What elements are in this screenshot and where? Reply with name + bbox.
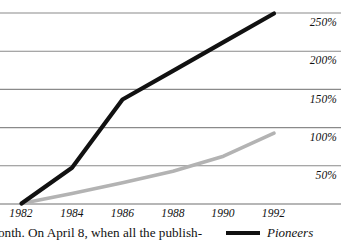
- chart-figure: 250% 200% 150% 100% 50% 1982 1984 1986 1…: [0, 0, 341, 216]
- series-line-pioneers: [22, 14, 275, 204]
- y-tick-label-200: 200%: [277, 54, 337, 66]
- legend-swatch-pioneers: [226, 231, 260, 234]
- body-text: onth. On April 8, when all the publish-: [0, 225, 213, 241]
- line-chart-plot: [0, 0, 341, 216]
- y-tick-label-150: 150%: [277, 93, 337, 105]
- y-tick-label-250: 250%: [277, 16, 337, 28]
- y-tick-label-50: 50%: [277, 169, 337, 181]
- series-line-gray: [22, 133, 275, 203]
- chart-legend: Pioneers: [226, 225, 313, 241]
- legend-label-pioneers: Pioneers: [267, 225, 313, 241]
- caption-row: onth. On April 8, when all the publish- …: [0, 216, 341, 245]
- y-tick-label-100: 100%: [277, 131, 337, 143]
